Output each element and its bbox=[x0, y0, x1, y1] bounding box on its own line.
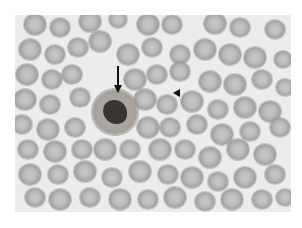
red-blood-cell bbox=[265, 20, 285, 39]
red-blood-cell bbox=[109, 15, 127, 28]
red-blood-cell bbox=[234, 97, 256, 118]
red-blood-cell bbox=[129, 161, 151, 182]
red-blood-cell bbox=[134, 89, 156, 110]
red-blood-cell bbox=[234, 167, 256, 188]
red-blood-cell bbox=[102, 168, 122, 187]
red-blood-cell bbox=[244, 47, 266, 68]
red-blood-cell bbox=[224, 74, 246, 95]
red-blood-cell bbox=[19, 164, 41, 185]
red-blood-cell bbox=[162, 15, 182, 34]
red-blood-cell bbox=[170, 62, 190, 81]
red-blood-cell bbox=[208, 172, 228, 191]
red-blood-cell bbox=[149, 139, 171, 160]
red-blood-cell bbox=[42, 70, 62, 89]
red-blood-cell bbox=[44, 141, 66, 162]
red-blood-cell bbox=[89, 31, 111, 52]
red-blood-cell bbox=[117, 44, 139, 65]
arrow-icon bbox=[117, 66, 119, 86]
red-blood-cell bbox=[120, 140, 140, 159]
red-blood-cell bbox=[50, 18, 70, 37]
red-blood-cell bbox=[62, 65, 82, 84]
red-blood-cell bbox=[138, 190, 158, 209]
red-blood-cell bbox=[72, 140, 92, 159]
blood-smear-image bbox=[15, 15, 291, 212]
red-blood-cell bbox=[175, 140, 195, 159]
red-blood-cell bbox=[48, 165, 68, 184]
red-blood-cell bbox=[80, 188, 100, 207]
red-blood-cell bbox=[194, 39, 216, 60]
red-blood-cell bbox=[147, 65, 167, 84]
red-blood-cell bbox=[49, 189, 71, 210]
red-blood-cell bbox=[24, 15, 46, 35]
red-blood-cell bbox=[219, 44, 241, 65]
red-blood-cell bbox=[65, 118, 85, 137]
red-blood-cell bbox=[274, 51, 291, 68]
arrow-head-icon bbox=[114, 85, 122, 93]
red-blood-cell bbox=[252, 190, 272, 209]
red-blood-cell bbox=[15, 89, 36, 110]
red-blood-cell bbox=[230, 18, 250, 37]
red-blood-cell bbox=[137, 117, 159, 138]
red-blood-cell bbox=[204, 15, 226, 34]
red-blood-cell bbox=[195, 192, 215, 211]
red-blood-cell bbox=[158, 165, 178, 184]
red-blood-cell bbox=[74, 161, 96, 182]
red-blood-cell bbox=[181, 91, 203, 112]
neutrophil bbox=[93, 90, 137, 134]
red-blood-cell bbox=[199, 71, 221, 92]
red-blood-cell bbox=[276, 189, 291, 206]
red-blood-cell bbox=[68, 38, 88, 57]
red-blood-cell bbox=[45, 45, 65, 64]
red-blood-cell bbox=[19, 39, 41, 60]
red-blood-cell bbox=[265, 165, 285, 184]
red-blood-cell bbox=[160, 118, 180, 137]
red-blood-cell bbox=[25, 188, 45, 207]
arrowhead-marker-icon bbox=[173, 89, 180, 97]
red-blood-cell bbox=[199, 147, 221, 168]
red-blood-cell bbox=[227, 139, 249, 160]
red-blood-cell bbox=[254, 144, 276, 165]
red-blood-cell bbox=[137, 15, 159, 35]
red-blood-cell bbox=[221, 189, 243, 210]
red-blood-cell bbox=[18, 140, 38, 159]
red-blood-cell bbox=[240, 122, 260, 141]
red-blood-cell bbox=[109, 189, 131, 210]
red-blood-cell bbox=[164, 187, 186, 208]
red-blood-cell bbox=[142, 38, 162, 57]
red-blood-cell bbox=[276, 79, 291, 96]
red-blood-cell bbox=[79, 15, 101, 32]
red-blood-cell bbox=[124, 69, 146, 90]
red-blood-cell bbox=[270, 118, 290, 137]
red-blood-cell bbox=[181, 167, 203, 188]
red-blood-cell bbox=[16, 64, 38, 85]
red-blood-cell bbox=[94, 139, 116, 160]
red-blood-cell bbox=[208, 100, 228, 119]
red-blood-cell bbox=[15, 115, 32, 134]
red-blood-cell bbox=[252, 70, 272, 89]
red-blood-cell bbox=[187, 115, 207, 134]
red-blood-cell bbox=[70, 88, 90, 107]
red-blood-cell bbox=[40, 95, 60, 114]
segmented-nucleus bbox=[103, 100, 127, 124]
red-blood-cell bbox=[157, 95, 177, 114]
red-blood-cell bbox=[37, 119, 59, 140]
